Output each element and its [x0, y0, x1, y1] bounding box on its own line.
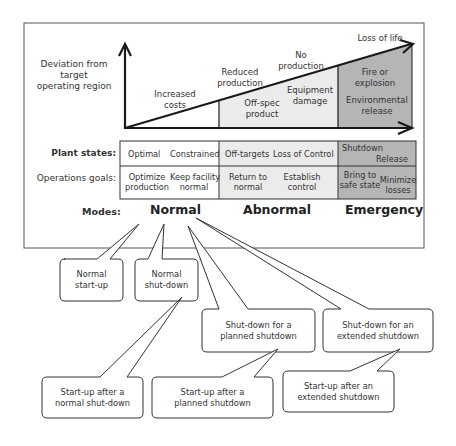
label-environmental-release: Environmental release	[342, 95, 412, 116]
mode-normal: Normal	[150, 202, 201, 217]
modes-label: Modes:	[82, 206, 121, 217]
callout-extended-shutdown: Shut-down for an extended shutdown	[323, 320, 433, 342]
state-release: Release	[376, 154, 408, 164]
row-label-operations-goals: Operations goals:	[37, 173, 116, 184]
goal-bring-to-safe-state: Bring to safe state	[339, 170, 381, 190]
state-constrained: Constrained	[170, 149, 219, 159]
state-shutdown: Shutdown	[342, 143, 383, 153]
label-increased-costs: Increased costs	[145, 89, 205, 110]
callout-startup-after-extended: Start-up after an extended shutdown	[283, 381, 394, 403]
label-fire-or-explosion: Fire or explosion	[345, 67, 405, 88]
goal-optimize-production: Optimize production	[125, 172, 169, 192]
label-equipment-damage: Equipment damage	[285, 85, 335, 106]
mode-emergency: Emergency	[345, 202, 423, 217]
callout-startup-after-normal: Start-up after a normal shut-down	[42, 387, 143, 409]
goal-establish-control: Establish control	[280, 172, 324, 192]
callout-normal-startup: Normal start-up	[60, 269, 123, 291]
goal-keep-facility-normal: Keep facility normal	[170, 172, 218, 192]
label-no-production: No production	[276, 50, 326, 71]
goal-minimize-losses: Minimize losses	[378, 175, 418, 195]
callout-startup-after-planned: Start-up after a planned shutdown	[152, 387, 273, 409]
label-reduced-production: Reduced production	[215, 67, 265, 88]
callout-planned-shutdown: Shut-down for a planned shutdown	[202, 320, 315, 342]
state-off-targets: Off-targets	[225, 149, 269, 159]
label-off-spec-product: Off-spec product	[237, 98, 287, 119]
state-loss-of-control: Loss of Control	[273, 149, 334, 159]
goal-return-to-normal: Return to normal	[226, 172, 270, 192]
mode-abnormal: Abnormal	[243, 202, 311, 217]
label-loss-of-life: Loss of life	[350, 33, 410, 44]
callout-normal-shutdown: Normal shut-down	[135, 269, 198, 291]
y-axis-label: Deviation from target operating region	[32, 59, 116, 92]
row-label-plant-states: Plant states:	[51, 148, 116, 159]
state-optimal: Optimal	[128, 149, 160, 159]
